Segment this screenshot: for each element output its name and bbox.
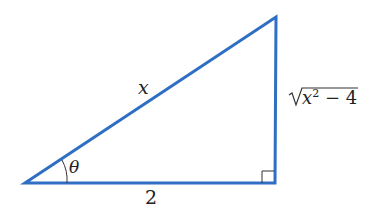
- triangle-diagram: [0, 0, 383, 216]
- angle-arc: [62, 160, 67, 183]
- opposite-rest: − 4: [325, 87, 357, 108]
- opposite-exponent: 2: [312, 87, 319, 100]
- triangle: [25, 17, 276, 183]
- angle-label: θ: [69, 157, 79, 177]
- hypotenuse-label: x: [138, 76, 149, 98]
- opposite-radicand: x: [302, 87, 312, 108]
- adjacent-label: 2: [145, 186, 157, 208]
- right-angle-marker: [262, 171, 274, 183]
- opposite-label: x2 − 4: [302, 87, 357, 108]
